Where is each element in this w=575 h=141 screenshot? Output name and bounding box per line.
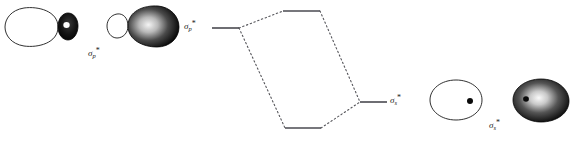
orbital-small-white-lobe	[107, 14, 128, 38]
connector-top-to-ss	[320, 11, 360, 102]
sigma-s-star-orbital-outline	[430, 80, 482, 120]
sigma-p-star-orbital-outline	[5, 8, 78, 47]
orbital-egg-outline	[430, 80, 482, 120]
orbital-nucleus-dot	[63, 22, 69, 28]
orbital-nucleus-dot	[467, 98, 473, 104]
connector-bottom-to-ss	[321, 102, 360, 128]
label-superscript: *	[192, 19, 196, 28]
orbital-right-label: σs*	[489, 119, 500, 132]
orbital-large-white-lobe	[5, 8, 58, 47]
connector-sp-to-top	[239, 11, 283, 28]
orbital-nucleus-dot	[523, 96, 529, 102]
label-superscript: *	[496, 118, 500, 127]
label-superscript: *	[96, 46, 100, 55]
connector-sp-to-bottom	[239, 28, 285, 128]
level-sigma-p-star-label: σp*	[184, 20, 196, 33]
orbital-egg-shaded	[513, 79, 569, 122]
level-sigma-s-star-label: σs*	[390, 94, 401, 107]
label-superscript: *	[397, 93, 401, 102]
orbital-large-shaded-lobe	[128, 6, 179, 47]
orbital-left-label: σp*	[88, 47, 100, 60]
sigma-s-star-orbital-shaded	[513, 79, 569, 122]
sigma-p-star-orbital-shaded	[107, 6, 179, 47]
energy-correlation-diagram	[212, 11, 387, 128]
